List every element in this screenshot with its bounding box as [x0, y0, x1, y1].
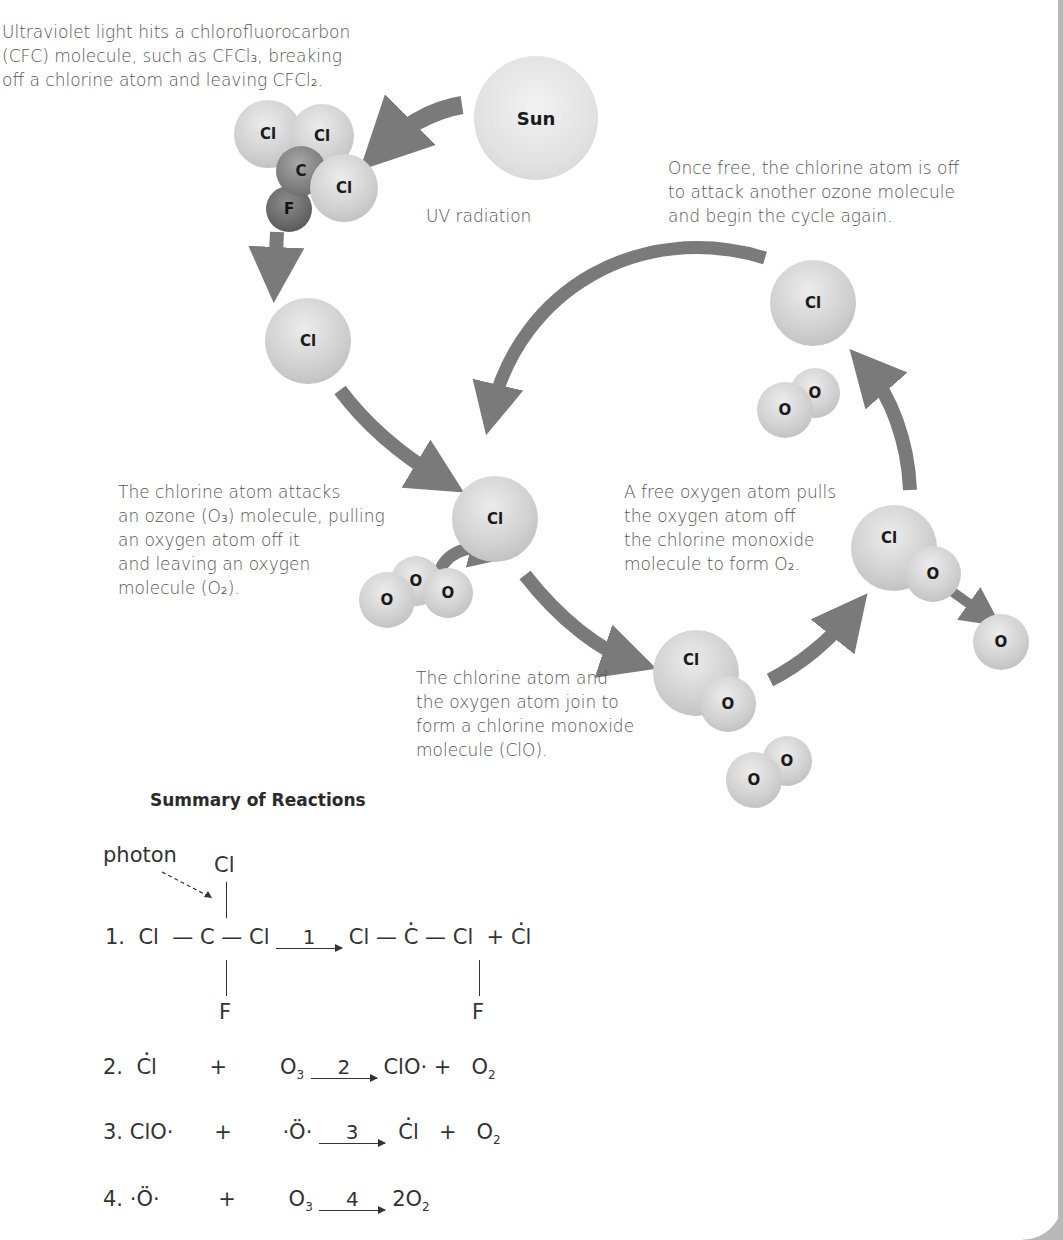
reaction-3: 3. ClO· + ·Ö· 3 Cl + O2 [103, 1120, 501, 1147]
arrow-to-clo [525, 575, 630, 660]
atom-cl-attacking: Cl [452, 476, 538, 562]
page-corner [1023, 1200, 1063, 1240]
sun: Sun [474, 56, 598, 180]
uv-arrow [385, 105, 462, 145]
atom-cl: Cl [310, 154, 378, 222]
photon-label: photon [103, 843, 177, 867]
caption-clo-step: The chlorine atom and the oxygen atom jo… [416, 666, 634, 762]
arrow-restart-arc [492, 248, 765, 410]
atom-o: O [700, 676, 756, 732]
bond-vertical [479, 960, 480, 996]
atom-o: O [359, 572, 415, 628]
reaction-4: 4. ·Ö· + O3 4 2O2 [103, 1187, 430, 1214]
summary-title: Summary of Reactions [150, 790, 366, 810]
reaction-arrow-1: 1 [276, 928, 342, 949]
reaction-2: 2. Cl + O3 2 ClO· + O2 [103, 1055, 496, 1082]
atom-o: O [423, 568, 473, 618]
atom-o-free: O [973, 614, 1029, 670]
reaction-arrow-3: 3 [319, 1123, 385, 1144]
reaction-arrow-2: 2 [311, 1058, 377, 1079]
arrow-o-to-free-o [950, 590, 985, 615]
atom-cl-free: Cl [265, 298, 351, 384]
caption-free-oxygen-step: A free oxygen atom pulls the oxygen atom… [624, 480, 836, 576]
arrow-cfc-to-cl [275, 232, 277, 275]
photon-dashed-arrow [160, 870, 220, 910]
arrow-clo-to-right [770, 615, 850, 680]
caption-restart-step: Once free, the chlorine atom is off to a… [668, 156, 959, 228]
atom-o: O [905, 546, 961, 602]
caption-uv-step: Ultraviolet light hits a chlorofluorocar… [2, 20, 350, 92]
atom-o: O [726, 752, 782, 808]
atom-cl-regenerated: Cl [770, 260, 856, 346]
bond-vertical [226, 960, 227, 996]
bond-vertical [226, 882, 227, 918]
reaction-arrow-4: 4 [319, 1190, 385, 1211]
atom-o: O [757, 382, 813, 438]
arrow-up-to-cl [868, 370, 910, 490]
caption-attack-step: The chlorine atom attacks an ozone (O₃) … [118, 480, 385, 600]
uv-radiation-label: UV radiation [426, 206, 531, 226]
arrow-cl-to-attack [340, 390, 440, 478]
